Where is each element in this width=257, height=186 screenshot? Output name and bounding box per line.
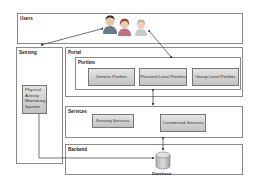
database-label: Database (152, 171, 172, 176)
backend-label: Backend (68, 147, 87, 152)
user-icon-2 (117, 17, 132, 36)
users-label: Users (20, 16, 33, 21)
services-label: Services (68, 109, 87, 114)
existing-services: Existing Services (92, 114, 134, 128)
personal-level-portlets: Personal Level Portlets (139, 68, 187, 86)
user-icon-1 (102, 14, 118, 34)
sensing-label: Sensing (19, 50, 37, 55)
database-icon (155, 151, 171, 170)
portlets-label: Portlets (78, 60, 95, 65)
group-level-portlets: Group Level Portlets (192, 68, 239, 86)
user-icon-3 (134, 18, 148, 36)
portal-label: Portal (68, 50, 81, 55)
physical-activity-monitoring-system: Physical Activity Monitoring System (22, 85, 47, 114)
generic-portlets: Generic Portlets (88, 68, 135, 86)
customised-services: Customised Services (160, 114, 206, 132)
